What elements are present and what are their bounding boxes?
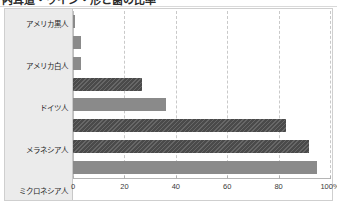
plot-area: アメリカ黒人アメリカ白人ドイツ人メラネシア人ミクロネシア人日本人韓国人中国人（北… <box>73 11 330 178</box>
bar-row: アメリカ黒人 <box>73 15 330 28</box>
x-tick-label-40: 40 <box>172 182 180 191</box>
chart-title-strip: 内耳道・ワイン・形と歯の比率 <box>0 0 337 7</box>
x-tick-mark-0 <box>73 176 74 179</box>
bar-row: ミクロネシア人 <box>73 98 330 111</box>
x-tick-mark-60 <box>227 176 228 179</box>
bar-4 <box>73 78 142 91</box>
bar-7 <box>73 140 309 153</box>
category-label-5: ミクロネシア人 <box>0 188 68 196</box>
x-axis-line <box>73 178 330 179</box>
category-label-1: アメリカ黒人 <box>0 21 68 29</box>
bar-chart: アメリカ黒人アメリカ白人ドイツ人メラネシア人ミクロネシア人日本人韓国人中国人（北… <box>4 8 333 201</box>
bar-5 <box>73 98 166 111</box>
bar-row: ドイツ人 <box>73 57 330 70</box>
x-tick-mark-20 <box>124 176 125 179</box>
x-tick-mark-80 <box>279 176 280 179</box>
x-tick-label-20: 20 <box>120 182 128 191</box>
category-label-3: ドイツ人 <box>0 105 68 113</box>
category-label-4: メラネシア人 <box>0 147 68 155</box>
bar-row: アメリカ白人 <box>73 36 330 49</box>
x-tick-label-60: 60 <box>223 182 231 191</box>
x-tick-mark-40 <box>176 176 177 179</box>
bar-2 <box>73 36 81 49</box>
x-tick-mark-100 <box>330 176 331 179</box>
x-tick-label-100pct: 100% <box>320 182 337 191</box>
bar-8 <box>73 161 317 174</box>
x-tick-label-0: 0 <box>71 182 75 191</box>
title-divider <box>0 6 337 7</box>
x-axis-ticks: 020406080100% <box>73 180 330 194</box>
bar-rows: アメリカ黒人アメリカ白人ドイツ人メラネシア人ミクロネシア人日本人韓国人中国人（北… <box>73 11 330 178</box>
bar-row: 中国人（北部） <box>73 161 330 174</box>
bar-row: メラネシア人 <box>73 78 330 91</box>
bar-6 <box>73 119 286 132</box>
gridline-100 <box>330 11 331 178</box>
bar-row: 日本人 <box>73 119 330 132</box>
x-tick-label-80: 80 <box>274 182 282 191</box>
category-label-2: アメリカ白人 <box>0 63 68 71</box>
bar-row: 韓国人 <box>73 140 330 153</box>
bar-3 <box>73 57 81 70</box>
bar-1 <box>73 15 75 28</box>
